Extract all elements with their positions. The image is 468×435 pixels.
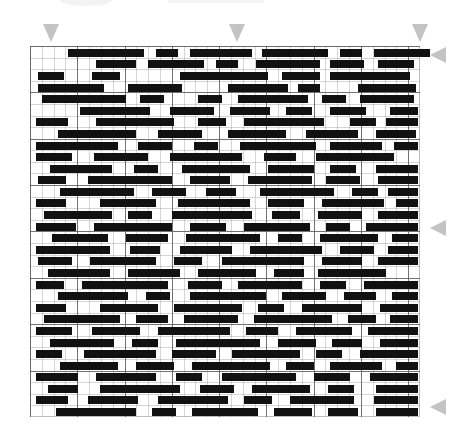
- pattern-bar: [322, 95, 346, 103]
- pattern-bar: [178, 199, 250, 207]
- pattern-bar: [190, 49, 252, 57]
- pattern-bar: [200, 385, 234, 393]
- pattern-bar: [148, 60, 204, 68]
- pattern-bar: [388, 246, 418, 254]
- pattern-bar: [36, 304, 66, 312]
- pattern-bar: [230, 107, 270, 115]
- pattern-bar: [254, 315, 332, 323]
- pattern-bar: [36, 350, 62, 358]
- pattern-bar: [360, 95, 414, 103]
- pattern-bar: [156, 49, 178, 57]
- pattern-bar: [272, 211, 300, 219]
- pattern-bar: [68, 49, 144, 57]
- top-edge-artifact-1: [60, 0, 112, 6]
- pattern-bar: [222, 257, 304, 265]
- pattern-bar: [194, 142, 218, 150]
- pattern-bar: [396, 199, 418, 207]
- pattern-bar: [136, 315, 168, 323]
- pattern-bar: [378, 257, 418, 265]
- pattern-bar: [274, 269, 304, 277]
- pattern-bar: [378, 176, 418, 184]
- pattern-bar: [192, 362, 270, 370]
- pattern-bar: [370, 373, 418, 381]
- pattern-bar: [100, 199, 156, 207]
- pattern-bar: [158, 396, 228, 404]
- pattern-bar: [350, 118, 376, 126]
- pattern-bar: [340, 246, 374, 254]
- pattern-bar: [88, 396, 138, 404]
- pattern-bar: [36, 223, 76, 231]
- pattern-bar: [180, 72, 268, 80]
- pattern-bar: [376, 408, 418, 416]
- pattern-bar: [358, 84, 416, 92]
- pattern-bar: [42, 95, 126, 103]
- pattern-bar: [198, 118, 226, 126]
- pattern-bar: [176, 339, 260, 347]
- pattern-bar: [158, 327, 230, 335]
- pattern-bar: [128, 84, 182, 92]
- pattern-bar: [296, 327, 352, 335]
- pattern-bar: [244, 223, 310, 231]
- pattern-bar: [188, 281, 222, 289]
- pattern-bar: [38, 176, 66, 184]
- pattern-bar: [190, 292, 266, 300]
- pattern-bar: [246, 327, 278, 335]
- pattern-bar: [228, 130, 286, 138]
- alignment-marker-right-1: [430, 47, 446, 63]
- pattern-bar: [174, 304, 242, 312]
- pattern-bar: [328, 408, 358, 416]
- pattern-bar: [326, 223, 350, 231]
- pattern-bar: [252, 385, 310, 393]
- pattern-bar: [100, 385, 180, 393]
- pattern-bar: [36, 246, 110, 254]
- pattern-bar: [126, 234, 168, 242]
- pattern-bar: [186, 234, 260, 242]
- pattern-bar: [138, 142, 172, 150]
- pattern-bar: [136, 362, 174, 370]
- pattern-bar: [170, 153, 242, 161]
- pattern-bar: [286, 107, 312, 115]
- pattern-bar: [388, 188, 418, 196]
- pattern-bar: [152, 408, 176, 416]
- pattern-bar: [322, 199, 384, 207]
- pattern-bar: [364, 281, 418, 289]
- pattern-bar: [36, 327, 72, 335]
- alignment-marker-top-3: [412, 24, 428, 42]
- pattern-bar: [318, 269, 386, 277]
- pattern-bar: [174, 257, 202, 265]
- pattern-bar: [238, 281, 302, 289]
- pattern-bar: [36, 199, 66, 207]
- pattern-bar: [60, 362, 118, 370]
- pattern-bar: [302, 304, 362, 312]
- pattern-bar: [348, 315, 376, 323]
- pattern-bar: [146, 292, 170, 300]
- pattern-bar: [216, 60, 238, 68]
- pattern-bar: [140, 95, 164, 103]
- pattern-bar: [182, 165, 250, 173]
- pattern-bar: [376, 130, 416, 138]
- pattern-bar: [206, 188, 236, 196]
- pattern-bar: [184, 315, 238, 323]
- pattern-bar: [360, 350, 418, 358]
- pattern-bar: [268, 199, 304, 207]
- pattern-bar: [386, 118, 418, 126]
- pattern-bar: [94, 223, 172, 231]
- pattern-bar: [250, 246, 322, 254]
- pattern-bar: [256, 60, 320, 68]
- pattern-bar: [368, 327, 418, 335]
- pattern-bar: [328, 385, 354, 393]
- pattern-bar: [36, 281, 64, 289]
- pattern-bar: [330, 72, 410, 80]
- pattern-bar: [158, 130, 202, 138]
- pattern-bar: [282, 72, 320, 80]
- pattern-bar: [366, 223, 418, 231]
- pattern-bar: [260, 188, 334, 196]
- pattern-bar: [344, 292, 376, 300]
- pattern-bar: [80, 107, 150, 115]
- pattern-bar: [390, 107, 418, 115]
- bar-layer: [30, 46, 420, 417]
- pattern-bar: [316, 153, 394, 161]
- pattern-bar: [170, 107, 214, 115]
- pattern-bar: [88, 176, 172, 184]
- pattern-bar: [340, 49, 362, 57]
